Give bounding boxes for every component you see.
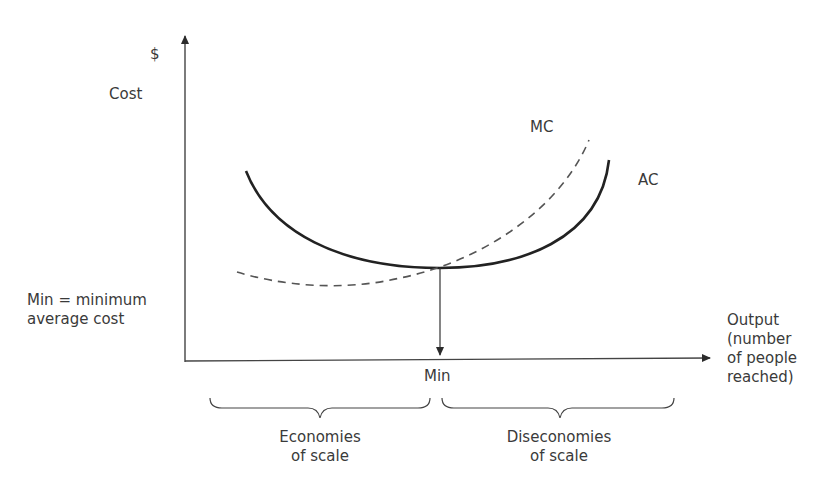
min-note-line-1: Min = minimum (27, 291, 147, 310)
diseconomies-line-2: of scale (494, 447, 624, 466)
x-axis (185, 358, 710, 361)
y-unit-label: $ (150, 45, 160, 64)
ac-label: AC (638, 171, 658, 190)
economies-line-1: Economies (262, 428, 378, 447)
economies-brace (210, 398, 430, 418)
x-label-line-4: reached) (727, 368, 797, 387)
economies-label: Economies of scale (262, 428, 378, 466)
min-note: Min = minimum average cost (27, 291, 147, 329)
min-tick-label: Min (424, 367, 451, 386)
x-label-line-3: of people (727, 349, 797, 368)
mc-label: MC (530, 118, 553, 137)
min-note-line-2: average cost (27, 310, 147, 329)
cost-curve-diagram (0, 0, 839, 495)
x-label-line-2: (number (727, 330, 797, 349)
mc-curve (237, 140, 589, 286)
y-axis-label: Cost (109, 85, 142, 104)
economies-line-2: of scale (262, 447, 378, 466)
x-axis-label: Output (number of people reached) (727, 311, 797, 387)
x-label-line-1: Output (727, 311, 797, 330)
diseconomies-line-1: Diseconomies (494, 428, 624, 447)
ac-curve (246, 160, 609, 268)
diseconomies-label: Diseconomies of scale (494, 428, 624, 466)
diseconomies-brace (442, 398, 674, 418)
